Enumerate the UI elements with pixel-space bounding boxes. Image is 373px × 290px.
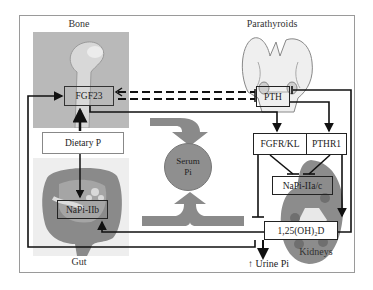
calcitriol-node: 1,25(OH)₂D <box>264 221 338 240</box>
grey-arrow-down <box>150 118 208 146</box>
pth-node: PTH <box>256 86 290 107</box>
pthr1-node: PTHR1 <box>306 133 347 155</box>
serum-pi-circle: Serum Pi <box>164 143 212 191</box>
bone-label: Bone <box>68 18 89 29</box>
napi-iiac-node: NaPi-IIa/c <box>272 176 333 195</box>
urine-pi-label: Urine Pi <box>256 258 290 269</box>
serum-label: Serum <box>176 156 200 167</box>
up-arrow-icon: ↑ <box>248 258 253 269</box>
urine-pi-output: ↑ Urine Pi <box>248 258 289 269</box>
fgf23-node: FGF23 <box>64 86 114 106</box>
pi-label: Pi <box>184 167 192 178</box>
napi-iib-node: NaPi-IIb <box>57 200 108 219</box>
grey-arrow-up <box>142 192 244 226</box>
gut-label: Gut <box>72 256 87 267</box>
fgfr-kl-node: FGFR/KL <box>253 133 307 155</box>
parathyroids-label: Parathyroids <box>247 18 298 29</box>
kidneys-label: Kidneys <box>299 246 332 257</box>
dietary-p-node: Dietary P <box>42 132 124 154</box>
